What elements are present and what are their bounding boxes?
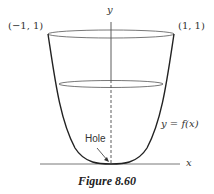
left-point-label: (−1, 1)	[8, 20, 43, 31]
right-point-label: (1, 1)	[178, 20, 205, 31]
hole-label: Hole	[85, 133, 106, 144]
figure-caption: Figure 8.60	[0, 174, 214, 189]
curve-label: y = f(x)	[161, 118, 199, 129]
x-axis-label: x	[186, 157, 192, 168]
y-axis-label: y	[107, 4, 113, 15]
